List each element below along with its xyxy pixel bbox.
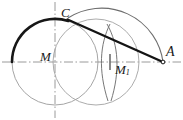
point-label-C: C	[61, 6, 70, 19]
point-label-M: M	[40, 50, 51, 63]
point-label-A: A	[166, 45, 175, 59]
point-label-M1: M1	[115, 63, 130, 78]
geometric-figure: C M M1 A	[0, 0, 183, 120]
point-A-marker	[161, 60, 165, 64]
large-arc-C-to-A	[68, 8, 163, 62]
point-label-M1-subscript: 1	[126, 68, 130, 77]
chord-C-A	[68, 20, 164, 63]
construction-drawing-canvas	[0, 0, 183, 120]
point-label-M1-base: M	[115, 62, 126, 77]
